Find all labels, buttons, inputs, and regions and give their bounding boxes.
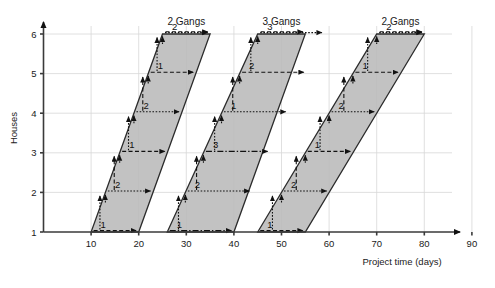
y-tick-label: 6 <box>31 29 36 40</box>
band-group <box>91 34 424 232</box>
line-of-balance-chart: 102030405060708090123456Project time (da… <box>0 0 495 288</box>
x-tick-label: 70 <box>371 238 382 249</box>
gang-number-label: 1 <box>177 219 182 230</box>
x-tick-label: 30 <box>181 238 192 249</box>
gang-number-label: 1 <box>101 219 106 230</box>
gang-number-label: 1 <box>267 219 272 230</box>
gang-number-label: 1 <box>129 139 134 150</box>
gang-number-label: 2 <box>115 179 120 190</box>
gang-number-label: 1 <box>158 60 163 71</box>
gangs-header-label: 2 Gangs <box>382 16 420 27</box>
gang-number-label: 2 <box>339 100 344 111</box>
y-tick-label: 2 <box>31 187 36 198</box>
gang-number-label: 1 <box>362 60 367 71</box>
x-axis-title: Project time (days) <box>362 256 441 267</box>
gang-number-label: 2 <box>143 100 148 111</box>
chart-canvas: 102030405060708090123456Project time (da… <box>0 0 495 288</box>
x-tick-label: 10 <box>86 238 97 249</box>
x-tick-label: 60 <box>324 238 335 249</box>
x-tick-label: 50 <box>276 238 287 249</box>
x-tick-label: 80 <box>419 238 430 249</box>
gang-number-label: 2 <box>249 60 254 71</box>
y-axis-title: Houses <box>8 112 19 144</box>
gang-number-label: 2 <box>291 179 296 190</box>
gang-number-label: 2 <box>195 179 200 190</box>
x-tick-label: 90 <box>467 238 478 249</box>
gangs-header-label: 3 Gangs <box>263 16 301 27</box>
gang-number-label: 3 <box>213 139 218 150</box>
gang-number-label: 1 <box>231 100 236 111</box>
y-tick-label: 1 <box>31 227 36 238</box>
y-tick-label: 3 <box>31 147 36 158</box>
gangs-header-label: 2 Gangs <box>167 16 205 27</box>
y-tick-label: 5 <box>31 68 36 79</box>
x-tick-label: 40 <box>229 238 240 249</box>
x-tick-label: 20 <box>133 238 144 249</box>
gang-number-label: 1 <box>315 139 320 150</box>
y-tick-label: 4 <box>31 108 36 119</box>
